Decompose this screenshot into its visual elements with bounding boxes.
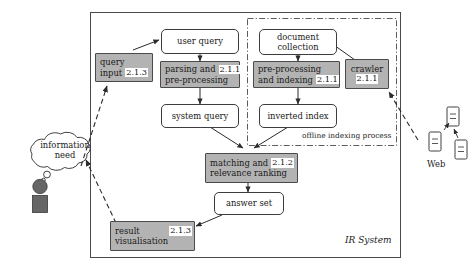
node-system-query[interactable]: system query [161,104,239,128]
offline-indexing-label: offline indexing process [302,131,391,140]
node-crawler[interactable]: crawler 2.1.1 [345,59,389,89]
node-result-line1: result [115,226,140,236]
node-query-input[interactable]: query input 2.1.3 [95,53,153,82]
ir-system-label: IR System [345,235,392,245]
node-result-visualisation[interactable]: result 2.1.3 visualisation [110,221,195,251]
edge-webright-webtop [454,129,458,138]
node-system-query-label: system query [172,111,229,121]
edge-web-crawler [389,92,418,140]
node-matching-line2: relevance ranking [210,168,287,178]
edge-queryinput-userquery [133,40,159,50]
node-matching-ranking[interactable]: matching and 2.1.2 relevance ranking [205,153,298,183]
diagram-canvas: information need query input 2.1.3 user … [0,0,472,271]
web-label: Web [427,159,445,169]
edge-webleft-webtop [444,123,449,130]
node-matching-section: 2.1.2 [271,158,294,168]
node-inverted-index[interactable]: inverted index [259,104,337,128]
node-answer-set-label: answer set [226,198,272,208]
web-document-icon-right [455,140,467,159]
node-answer-set[interactable]: answer set [214,192,284,215]
node-preprocessing-line2: and indexing [258,75,313,85]
node-preprocessing-line1: pre-processing [258,64,321,74]
node-preprocessing-section: 2.1.1 [316,75,339,85]
node-document-collection-line1: document [277,32,319,42]
node-query-input-line2: input [100,68,122,78]
node-parsing-preprocessing[interactable]: parsing and 2.1.1 pre-processing [160,61,240,88]
web-document-icon-left [429,132,441,151]
node-parsing-line1: parsing and [165,64,216,74]
node-matching-line1: matching and [210,158,268,168]
node-preprocessing-indexing[interactable]: pre-processing and indexing 2.1.1 [253,61,340,88]
node-document-collection-line2: collection [277,42,318,52]
node-parsing-line2: pre-processing [165,75,228,85]
edge-invertedindex-matching [254,127,288,148]
node-user-query[interactable]: user query [161,29,239,54]
edge-answerset-resultvis [196,215,222,226]
edge-systemquery-matching [210,127,243,148]
node-user-query-label: user query [177,36,223,46]
cloud-bubble-large [44,171,51,178]
person-icon [33,179,48,212]
node-result-line2: visualisation [115,236,168,246]
node-query-input-section: 2.1.3 [125,68,148,78]
node-parsing-section: 2.1.1 [219,65,242,75]
information-need-label: information need [26,140,104,160]
node-query-input-line1: query [100,57,124,67]
node-crawler-section: 2.1.1 [356,74,379,84]
node-document-collection[interactable]: document collection [259,29,337,55]
node-inverted-index-label: inverted index [267,111,328,121]
node-result-section: 2.1.3 [169,226,192,236]
